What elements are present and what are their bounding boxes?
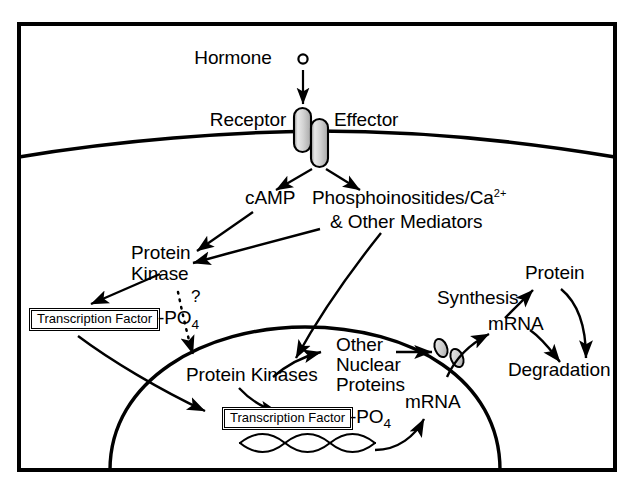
po4-text-cytoplasm: -PO <box>158 307 191 328</box>
po4-subscript-nucleus: 4 <box>383 416 391 431</box>
label-other-mediators: & Other Mediators <box>330 212 482 232</box>
label-other-nuclear-line1: Other <box>336 335 383 355</box>
label-question-mark: ? <box>191 288 200 306</box>
label-po4-cytoplasm: -PO4 <box>158 308 199 332</box>
dna-double-helix <box>240 434 375 452</box>
label-degradation: Degradation <box>508 360 610 380</box>
hormone-molecule <box>298 54 307 63</box>
po4-text-nucleus: -PO <box>350 406 383 427</box>
label-synthesis: Synthesis <box>437 288 518 308</box>
label-mrna-nucleus: mRNA <box>405 392 461 412</box>
receptor-protein <box>294 108 311 152</box>
label-phosphoinositides: Phosphoinositides/Ca2+ <box>312 188 506 208</box>
label-mrna-cytoplasm: mRNA <box>488 314 544 334</box>
arrow-camp-to-protein-kinase <box>197 212 253 251</box>
arrow-protein-degradation <box>561 289 586 358</box>
label-protein-kinase-line1: Protein <box>131 243 191 263</box>
label-po4-nucleus: -PO4 <box>350 407 391 431</box>
figure-frame <box>19 24 615 470</box>
label-effector: Effector <box>334 110 398 130</box>
transcription-factor-label-nucleus: Transcription Factor <box>224 409 351 428</box>
transcription-factor-box-nucleus: Transcription Factor <box>222 407 353 430</box>
po4-subscript-cytoplasm: 4 <box>191 317 199 332</box>
label-hormone: Hormone <box>194 48 271 68</box>
phosphoinositides-text: Phosphoinositides/Ca <box>312 187 494 208</box>
label-protein-kinases-nuclear: Protein Kinases <box>186 365 318 385</box>
arrow-mrna-degradation <box>530 330 560 362</box>
label-other-nuclear-line2: Nuclear <box>336 355 401 375</box>
label-receptor: Receptor <box>210 110 286 130</box>
label-protein: Protein <box>525 263 585 283</box>
calcium-charge-superscript: 2+ <box>494 187 507 199</box>
effector-protein <box>311 119 328 167</box>
label-other-nuclear-line3: Proteins <box>336 375 405 395</box>
label-protein-kinase-line2: Kinase <box>131 264 189 284</box>
arrow-mediators-to-protein-kinase <box>193 229 320 263</box>
transcription-factor-label-cytoplasm: Transcription Factor <box>31 310 158 329</box>
transcription-factor-box-cytoplasm: Transcription Factor <box>29 308 160 331</box>
nuclear-pore <box>432 337 466 369</box>
label-camp: cAMP <box>245 188 295 208</box>
figure-canvas: Hormone Receptor Effector cAMP Phosphoin… <box>0 0 633 483</box>
